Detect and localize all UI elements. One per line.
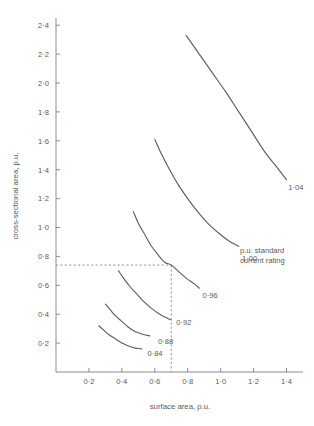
cross-sectional-vs-surface-area-chart: 0·20·40·60·81·01·21·41·61·82·02·22·4 0·2… bbox=[0, 0, 314, 426]
x-tick-label: 0·8 bbox=[182, 377, 193, 386]
annotation-line-2: current rating bbox=[240, 256, 285, 265]
y-tick-label: 0·4 bbox=[38, 310, 49, 319]
curve-0·92 bbox=[119, 271, 172, 320]
y-tick-label: 0·8 bbox=[38, 252, 49, 261]
y-axis-ticks bbox=[56, 25, 60, 343]
y-tick-label: 1·6 bbox=[38, 137, 49, 146]
y-tick-label: 1·4 bbox=[38, 166, 49, 175]
y-tick-label: 1·0 bbox=[38, 223, 49, 232]
x-tick-label: 1·2 bbox=[248, 377, 259, 386]
y-tick-label: 2·0 bbox=[38, 79, 49, 88]
x-tick-label: 0·6 bbox=[149, 377, 160, 386]
x-tick-label: 1·4 bbox=[281, 377, 292, 386]
y-tick-label: 0·2 bbox=[38, 339, 49, 348]
curve-1·04 bbox=[186, 35, 286, 179]
curve-0·88 bbox=[105, 304, 149, 336]
x-axis-title: surface area, p.u. bbox=[150, 402, 211, 411]
y-tick-label: 2·2 bbox=[38, 50, 49, 59]
curve-0·84 bbox=[99, 326, 142, 349]
y-tick-label: 0·6 bbox=[38, 281, 49, 290]
y-tick-label: 2·4 bbox=[38, 21, 49, 30]
curve-label: 0·96 bbox=[203, 291, 218, 300]
y-axis-title: cross-sectional area, p.u. bbox=[11, 152, 20, 239]
x-axis-ticks bbox=[89, 368, 287, 372]
annotation-line-1: p.u. standard bbox=[240, 246, 284, 255]
x-tick-label: 0·4 bbox=[116, 377, 127, 386]
y-tick-label: 1·8 bbox=[38, 108, 49, 117]
curve-label: 0·92 bbox=[176, 318, 191, 327]
y-tick-label: 1·2 bbox=[38, 194, 49, 203]
curve-label: 0·88 bbox=[158, 337, 173, 346]
x-tick-label: 1·0 bbox=[215, 377, 226, 386]
curve-label: 1·04 bbox=[288, 183, 303, 192]
curve-labels-group: 1·041·000·960·920·880·84 bbox=[147, 183, 303, 358]
x-tick-label: 0·2 bbox=[83, 377, 94, 386]
curve-series-group bbox=[99, 35, 287, 349]
curve-0·96 bbox=[133, 212, 199, 289]
curve-label: 0·84 bbox=[147, 349, 162, 358]
x-axis-tick-labels: 0·20·40·60·81·01·21·4 bbox=[83, 377, 292, 386]
y-axis-tick-labels: 0·20·40·60·81·01·21·41·61·82·02·22·4 bbox=[38, 21, 49, 348]
chart-figure: 0·20·40·60·81·01·21·41·61·82·02·22·4 0·2… bbox=[0, 0, 314, 426]
curve-1·00 bbox=[155, 139, 239, 246]
